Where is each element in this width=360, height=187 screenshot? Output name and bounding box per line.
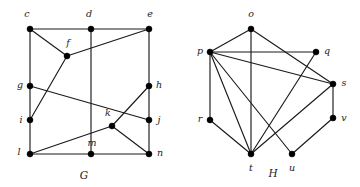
edge-r-t xyxy=(210,120,251,154)
graph-figure: cdefghijklmnGopqsrvtuH xyxy=(0,0,360,187)
edge-f-e xyxy=(67,29,149,56)
vertex-label-t: t xyxy=(249,162,253,173)
vertex-g xyxy=(27,83,33,89)
edge-group-H xyxy=(210,29,333,154)
vertex-label-o: o xyxy=(248,8,254,19)
vertex-s xyxy=(330,81,336,87)
vertex-v xyxy=(330,115,336,121)
vertex-p xyxy=(207,49,213,55)
edge-o-p xyxy=(210,29,251,52)
edge-g-j xyxy=(30,86,149,120)
vertex-label-n: n xyxy=(157,147,163,158)
vertex-r xyxy=(207,117,213,123)
edge-p-t xyxy=(210,52,251,154)
vertex-label-m: m xyxy=(87,137,96,148)
vertex-group-H: opqsrvtu xyxy=(197,8,347,173)
vertex-label-d: d xyxy=(86,8,92,19)
vertex-label-s: s xyxy=(342,77,347,88)
vertex-label-f: f xyxy=(65,37,71,48)
vertex-group-G: cdefghijklmn xyxy=(17,8,163,158)
vertex-label-g: g xyxy=(17,79,23,90)
vertex-i xyxy=(27,117,33,123)
graph-canvas: cdefghijklmnGopqsrvtuH xyxy=(0,0,360,187)
vertex-label-h: h xyxy=(156,79,162,90)
edge-o-s xyxy=(251,29,333,84)
edge-c-f xyxy=(30,29,67,56)
vertex-o xyxy=(248,26,254,32)
vertex-label-q: q xyxy=(324,45,330,56)
vertex-n xyxy=(146,151,152,157)
vertex-label-l: l xyxy=(17,146,20,157)
vertex-l xyxy=(27,151,33,157)
vertex-label-e: e xyxy=(147,8,153,19)
graph-H: opqsrvtuH xyxy=(197,8,347,180)
edge-q-t xyxy=(251,52,316,154)
vertex-m xyxy=(88,151,94,157)
graph-G: cdefghijklmnG xyxy=(17,8,163,182)
vertex-h xyxy=(146,83,152,89)
vertex-u xyxy=(289,151,295,157)
vertex-t xyxy=(248,151,254,157)
vertex-d xyxy=(88,26,94,32)
vertex-label-i: i xyxy=(19,114,22,125)
vertex-k xyxy=(109,123,115,129)
graph-caption-G: G xyxy=(80,169,88,181)
edge-group-G xyxy=(30,29,149,154)
vertex-f xyxy=(64,53,70,59)
edge-p-s xyxy=(210,52,333,84)
vertex-label-p: p xyxy=(197,45,203,56)
vertex-label-k: k xyxy=(105,107,111,118)
vertex-j xyxy=(146,117,152,123)
vertex-label-u: u xyxy=(289,162,295,173)
vertex-label-c: c xyxy=(24,8,30,19)
vertex-q xyxy=(313,49,319,55)
edge-v-u xyxy=(292,118,333,154)
vertex-c xyxy=(27,26,33,32)
edge-k-n xyxy=(112,126,149,154)
vertex-label-v: v xyxy=(341,112,347,123)
vertex-label-r: r xyxy=(198,113,204,124)
vertex-e xyxy=(146,26,152,32)
vertex-label-j: j xyxy=(156,114,161,125)
edge-l-k xyxy=(30,126,112,154)
graph-caption-H: H xyxy=(267,167,278,179)
edge-k-h xyxy=(112,86,149,126)
